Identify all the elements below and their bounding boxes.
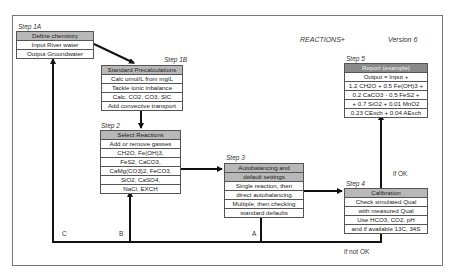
step-4-row: and if available 13C, 34S — [345, 225, 427, 233]
step-1b-label: Step 1B — [164, 56, 187, 63]
step-3-row: standard defaults — [225, 209, 303, 217]
loop-b-label: B — [119, 230, 123, 237]
step-2-row: FeS2, CaCO3, — [101, 158, 180, 167]
loop-a-label: A — [252, 230, 256, 237]
step-5-label: Step 5 — [346, 55, 365, 62]
step-1b-row: Tackle ionic inbalance — [102, 84, 182, 93]
step-1a-label: Step 1A — [18, 23, 41, 30]
step-2-label: Step 2 — [101, 122, 120, 129]
step-1a-row: Input River water — [17, 41, 93, 50]
if-not-ok-label: if not OK — [344, 248, 369, 255]
step-1b-row: Add convective transport — [102, 102, 182, 110]
step-4-header: Calibration — [345, 189, 427, 198]
step-2-row: NaCl, EXCH — [101, 185, 180, 193]
step-3-label: Step 3 — [226, 154, 245, 161]
step-4-row: Check simulated Qual — [345, 198, 427, 207]
step-5-box: Report (example) Output = Input + 1.2 CH… — [344, 63, 428, 118]
step-2-row: CH2O, Fe(OH)3, — [101, 149, 180, 158]
step-3-row: Multiple, then checking — [225, 200, 303, 209]
step-5-row: 1.2 CH2O + 0.5 Fe(OH)3 + — [345, 82, 427, 91]
step-2-row: Add or remove gasses — [101, 140, 180, 149]
step-1b-row: Calc. CO2, CO3, SIC — [102, 93, 182, 102]
step-2-box: Select Reactions Add or remove gasses CH… — [100, 130, 181, 194]
step-3-box: Autobalancing and default settings Singl… — [224, 163, 304, 218]
loop-c-label: C — [62, 230, 67, 237]
step-1a-row: Output Groundwater — [17, 50, 93, 58]
step-1a-header: Define chemistry — [17, 32, 93, 41]
step-2-row: CaMg(CO3)2, FeCO3, — [101, 167, 180, 176]
step-1a-box: Define chemistry Input River water Outpu… — [16, 31, 94, 59]
step-1b-box: Standard Precalculations Calc umol/L fro… — [101, 65, 183, 111]
diagram-title: REACTIONS+ — [300, 36, 345, 43]
step-4-row: Use HCO3, CO2, pH — [345, 216, 427, 225]
step-5-row: 0.23 CExch + 0.04 AExch — [345, 109, 427, 117]
step-1b-row: Calc umol/L from mg/L — [102, 75, 182, 84]
step-3-row: direct autobalancing — [225, 191, 303, 200]
version-label: Version 6 — [388, 36, 417, 43]
step-5-row: 0.2 CaCO3 - 0.5 FeS2 + — [345, 91, 427, 100]
step-5-row: Output = Input + — [345, 73, 427, 82]
step-2-row: SiO2, CaSO4, — [101, 176, 180, 185]
step-1b-header: Standard Precalculations — [102, 66, 182, 75]
step-5-row: + 0.7 SiO2 + 0.01 MnO2 — [345, 100, 427, 109]
step-3-header: Autobalancing and — [225, 164, 303, 173]
step-4-label: Step 4 — [346, 180, 365, 187]
if-ok-label: if OK — [393, 170, 407, 177]
step-4-row: with measured Qual — [345, 207, 427, 216]
step-2-header: Select Reactions — [101, 131, 180, 140]
step-5-header: Report (example) — [345, 64, 427, 73]
step-3-header: default settings — [225, 173, 303, 182]
step-3-row: Single reaction, then — [225, 182, 303, 191]
step-4-box: Calibration Check simulated Qual with me… — [344, 188, 428, 234]
